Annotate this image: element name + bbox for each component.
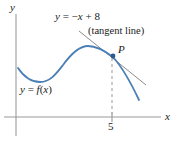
tangent-line-figure: y x y = −x + 8 (tangent line) P y = f(x)… — [0, 0, 183, 145]
x-tick-label-5: 5 — [108, 121, 114, 132]
line-equation-label: y = −x + 8 — [55, 11, 100, 22]
point-p-label: P — [118, 44, 125, 55]
tangent-line-note: (tangent line) — [88, 26, 144, 37]
x-axis-label: x — [165, 111, 170, 122]
point-p-marker — [111, 54, 116, 59]
function-label: y = f(x) — [20, 84, 52, 95]
y-axis-label: y — [10, 2, 15, 13]
